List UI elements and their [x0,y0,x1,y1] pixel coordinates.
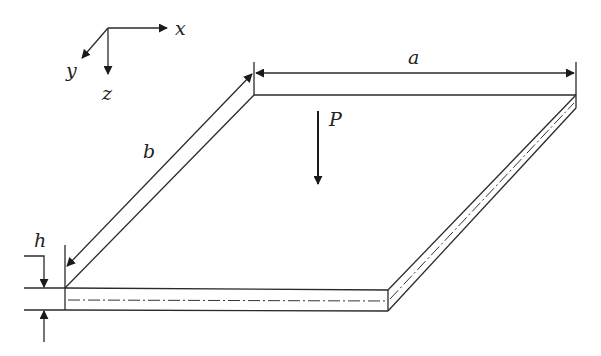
plate-right-bottom-edge [388,108,576,311]
dimension-a-label: a [408,46,419,68]
plate-front-bottom-edge [65,310,388,311]
plate [65,95,576,311]
x-axis-label: x [175,17,186,39]
dimension-b-label: b [143,140,155,162]
load-label: P [328,108,343,130]
dimension-h: h [24,229,65,342]
coordinate-axes: x y z [65,17,186,104]
dimension-b-arrow [67,74,252,266]
plate-right-top-edge [388,95,576,290]
dimension-h-label: h [34,229,46,251]
dimension-a: a [254,46,576,95]
plate-front-top-edge [65,288,388,290]
h-top-arrow [24,256,44,287]
side-midplane-line [390,103,574,299]
plate-left-edge [65,95,254,288]
front-midplane-line [68,300,386,301]
y-axis-label: y [65,59,77,81]
plate-diagram: x y z a b h [0,0,601,356]
y-axis-arrow [82,28,108,58]
load-p: P [318,108,343,184]
z-axis-label: z [101,82,113,104]
